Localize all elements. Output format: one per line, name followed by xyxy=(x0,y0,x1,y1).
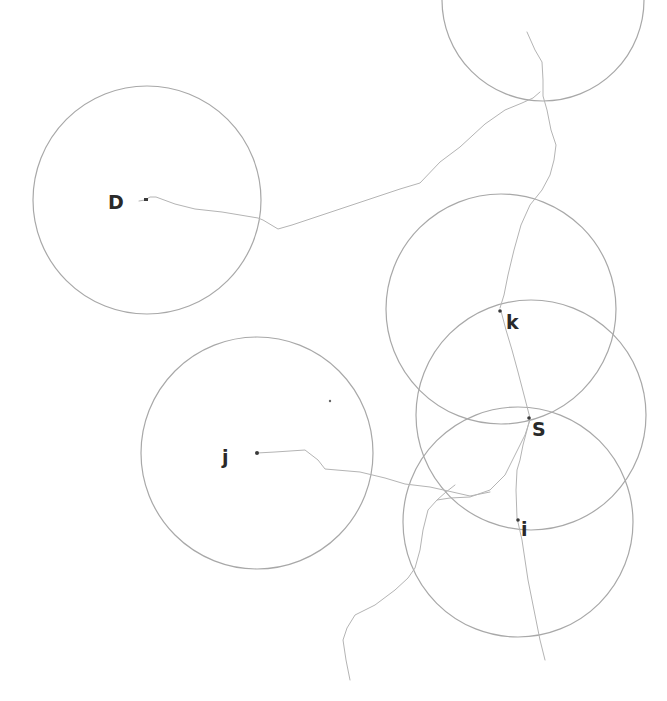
node-dot-s xyxy=(527,416,531,420)
node-label-d: D xyxy=(108,193,124,212)
node-dot-d xyxy=(144,198,148,201)
node-label-k: k xyxy=(506,313,519,332)
node-dot-i xyxy=(516,518,520,522)
stray-dot xyxy=(329,400,331,402)
route-path-s-southwest xyxy=(343,420,530,680)
network-diagram xyxy=(0,0,667,701)
node-dot-k xyxy=(498,309,502,313)
node-label-i: i xyxy=(521,520,528,539)
node-dot-j xyxy=(255,451,259,455)
route-path-top-k xyxy=(500,32,556,308)
node-label-s: S xyxy=(532,420,546,439)
range-circle-s xyxy=(416,300,646,530)
node-label-j: j xyxy=(222,448,229,467)
route-path-k-s-i xyxy=(501,311,545,660)
route-path-d-top xyxy=(139,92,540,229)
range-circle-k xyxy=(386,194,616,424)
